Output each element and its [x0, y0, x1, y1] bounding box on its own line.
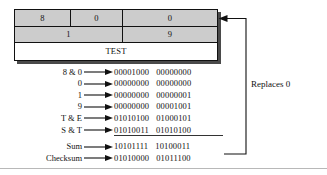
calc-bits-low: 01010100: [156, 126, 191, 135]
calc-bits-high: 01010000: [114, 154, 149, 163]
calc-row-arrow-icon: [84, 66, 114, 78]
calc-bits-high: 01010011: [114, 126, 149, 135]
calc-result-arrow-icon: [84, 141, 114, 153]
calc-bits-low: 00000000: [156, 79, 191, 88]
calc-row-label: 1: [22, 91, 84, 100]
figure-bottom-rule: [0, 168, 327, 169]
calc-row: 0 00000000 00000000: [22, 78, 237, 90]
packet-table-row-2: 1 9: [15, 27, 217, 43]
packet-table-row-1: 8 0 0: [15, 10, 217, 27]
calc-bits-high: 00001000: [114, 68, 149, 77]
calc-bits-high: 10101111: [114, 142, 148, 151]
calc-bits-low: 00000001: [156, 91, 191, 100]
packet-cell-0-checksum: 0: [123, 10, 217, 26]
packet-cell-test: TEST: [15, 43, 217, 60]
calc-row-bits: 00000000 00000000: [114, 79, 191, 88]
calc-result-row: Sum 10101111 10100011: [22, 141, 237, 153]
calc-bits-high: 00000000: [114, 79, 149, 88]
calc-bits-low: 01000101: [156, 114, 191, 123]
packet-cell-8: 8: [15, 10, 71, 26]
calc-result-row: Checksum 01010000 01011100: [22, 152, 237, 164]
packet-table-row-3: TEST: [15, 43, 217, 60]
calc-row-bits: 00001000 00000000: [114, 68, 191, 77]
packet-cell-9: 9: [123, 27, 217, 42]
calc-row: 8 & 0 00001000 00000000: [22, 66, 237, 78]
calc-result-bits: 10101111 10100011: [114, 142, 190, 151]
calc-bits-low: 10100011: [155, 142, 190, 151]
calc-result-label: Checksum: [22, 154, 84, 163]
calc-row-arrow-icon: [84, 89, 114, 101]
calc-bits-low: 00000000: [156, 68, 191, 77]
calc-bits-high: 00000000: [114, 91, 149, 100]
packet-table: 8 0 0 1 9 TEST: [14, 9, 218, 61]
calc-row-bits: 00000000 00000001: [114, 91, 191, 100]
calc-row: 9 00000000 00001001: [22, 101, 237, 113]
checksum-figure: 8 0 0 1 9 TEST Replaces 0 8 & 0: [0, 0, 327, 175]
calc-row-arrow-icon: [84, 124, 114, 136]
calc-result-bits: 01010000 01011100: [114, 154, 191, 163]
packet-cell-0-a: 0: [71, 10, 123, 26]
calc-bits-low: 00001001: [156, 102, 191, 111]
calc-row-label: 8 & 0: [22, 68, 84, 77]
calc-row-arrow-icon: [84, 101, 114, 113]
calc-row: 1 00000000 00000001: [22, 89, 237, 101]
calc-bits-low: 01011100: [156, 154, 191, 163]
calc-row-label: 9: [22, 102, 84, 111]
calc-bits-high: 00000000: [114, 102, 149, 111]
checksum-calculation-block: 8 & 0 00001000 00000000 0 0000: [22, 66, 237, 164]
calc-result-label: Sum: [22, 142, 84, 151]
sum-separator-rule: [114, 135, 223, 136]
calc-row: T & E 01010100 01000101: [22, 112, 237, 124]
calc-row-bits: 01010011 01010100: [114, 126, 191, 135]
calc-row-label: S & T: [22, 126, 84, 135]
packet-cell-1: 1: [15, 27, 123, 42]
calc-row-label: T & E: [22, 114, 84, 123]
calc-bits-high: 01010100: [114, 114, 149, 123]
calc-row-bits: 01010100 01000101: [114, 114, 191, 123]
calc-result-arrow-icon: [84, 152, 114, 164]
packet-table-wrapper: 8 0 0 1 9 TEST: [14, 9, 218, 61]
calc-row-label: 0: [22, 79, 84, 88]
replaces-zero-label: Replaces 0: [251, 80, 290, 89]
calc-row-arrow-icon: [84, 112, 114, 124]
calc-row-bits: 00000000 00001001: [114, 102, 191, 111]
calc-row-arrow-icon: [84, 78, 114, 90]
